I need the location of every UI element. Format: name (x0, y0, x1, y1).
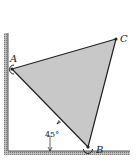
wall (4, 33, 8, 154)
triangular-plate (12, 39, 116, 147)
angle-label: 45° (45, 130, 59, 139)
pin-a-icon (10, 65, 15, 74)
pin-c-icon (115, 38, 118, 41)
label-c: C (120, 33, 128, 44)
floor (4, 151, 130, 155)
label-b: B (95, 144, 103, 155)
diagram-canvas: 45° A C B (0, 0, 136, 163)
label-a: A (9, 53, 17, 64)
